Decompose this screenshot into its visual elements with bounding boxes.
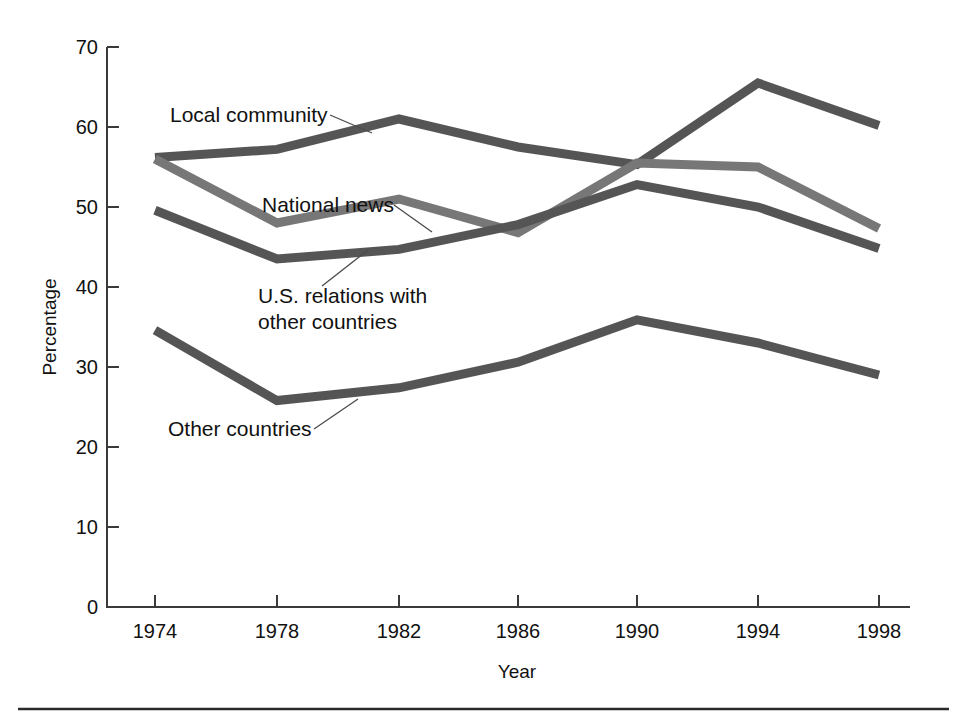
x-tick-label-1974: 1974 <box>133 620 178 642</box>
line-chart: 70 60 50 40 30 20 10 0 1974 1978 1982 19… <box>0 0 967 727</box>
annotation-national-news: National news <box>262 193 394 216</box>
x-axis-title: Year <box>498 661 537 682</box>
annotation-us-relations-line1: U.S. relations with <box>258 284 427 307</box>
y-tick-label-10: 10 <box>76 516 98 538</box>
chart-figure: 70 60 50 40 30 20 10 0 1974 1978 1982 19… <box>0 0 967 727</box>
x-tick-label-1990: 1990 <box>615 620 660 642</box>
y-tick-label-0: 0 <box>87 596 98 618</box>
annotation-us-relations-line2: other countries <box>258 310 397 333</box>
y-axis-title: Percentage <box>39 278 60 375</box>
y-tick-label-20: 20 <box>76 436 98 458</box>
y-axis-ticks <box>107 47 119 607</box>
series-lines <box>155 83 879 401</box>
leader-line-other-countries <box>314 399 358 429</box>
x-tick-label-1998: 1998 <box>857 620 902 642</box>
y-tick-label-50: 50 <box>76 196 98 218</box>
x-tick-label-1994: 1994 <box>736 620 781 642</box>
x-tick-label-1986: 1986 <box>496 620 541 642</box>
y-tick-label-40: 40 <box>76 276 98 298</box>
annotation-local-community: Local community <box>170 103 328 126</box>
y-tick-label-70: 70 <box>76 36 98 58</box>
x-axis-tick-labels: 1974 1978 1982 1986 1990 1994 1998 <box>133 620 902 642</box>
x-tick-label-1982: 1982 <box>377 620 422 642</box>
annotation-other-countries: Other countries <box>168 417 312 440</box>
x-tick-label-1978: 1978 <box>255 620 300 642</box>
chart-axes <box>107 47 910 607</box>
y-tick-label-30: 30 <box>76 356 98 378</box>
y-tick-label-60: 60 <box>76 116 98 138</box>
x-axis-ticks <box>155 595 879 607</box>
y-axis-tick-labels: 70 60 50 40 30 20 10 0 <box>76 36 98 618</box>
